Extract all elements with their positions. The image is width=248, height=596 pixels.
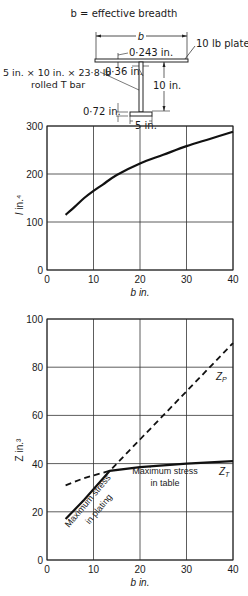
- x-tick-label: 30: [181, 564, 193, 575]
- y-tick-label: 0: [37, 265, 43, 276]
- x-axis-label: b in.: [131, 287, 150, 298]
- zt-series-label: ZT: [218, 466, 230, 478]
- y-axis-label: Z in.³: [14, 438, 25, 461]
- section-modulus-chart: 010203040020406080100b in.Z in.³ZPZTMaxi…: [14, 314, 239, 588]
- x-tick-label: 0: [44, 564, 50, 575]
- y-tick-label: 40: [32, 459, 44, 470]
- x-tick-label: 0: [44, 274, 50, 285]
- zp-series-label: ZP: [215, 371, 227, 383]
- flange-thickness-label: 0·72 in.: [83, 106, 121, 117]
- diagram-title: b = effective breadth: [71, 8, 178, 19]
- moment-of-inertia-chart: 0102030400100200300b in.I in.⁴: [14, 121, 239, 298]
- x-axis-label: b in.: [131, 577, 150, 588]
- x-tick-label: 40: [227, 274, 239, 285]
- depth-label: 10 in.: [153, 80, 181, 91]
- tbar-label-line2: rolled T bar: [31, 79, 85, 90]
- tbar-cross-section: b = effective breadth b 10 lb plate 0·24…: [3, 8, 248, 131]
- x-tick-label: 20: [134, 564, 146, 575]
- plate-label: 10 lb plate: [196, 38, 248, 49]
- tbar-flange: [130, 112, 152, 116]
- x-tick-label: 10: [88, 274, 100, 285]
- x-tick-label: 40: [227, 564, 239, 575]
- y-axis-label: I in.⁴: [14, 195, 25, 215]
- series-line-solid: [66, 132, 233, 215]
- x-tick-label: 30: [181, 274, 193, 285]
- y-tick-label: 60: [32, 410, 44, 421]
- table-annotation-line1: Maximum stress: [132, 466, 198, 476]
- y-tick-label: 200: [26, 169, 43, 180]
- tbar-label-line1: 5 in. × 10 in. × 23·8 lb: [3, 67, 111, 78]
- y-tick-label: 100: [26, 314, 43, 325]
- table-annotation-line2: in table: [150, 478, 179, 488]
- y-tick-label: 100: [26, 217, 43, 228]
- y-tick-label: 0: [37, 555, 43, 566]
- y-tick-label: 20: [32, 507, 44, 518]
- y-tick-label: 300: [26, 121, 43, 132]
- y-tick-label: 80: [32, 362, 44, 373]
- x-tick-label: 20: [134, 274, 146, 285]
- figure: b = effective breadth b 10 lb plate 0·24…: [0, 0, 248, 596]
- plate-thickness-label: 0·243 in.: [129, 47, 173, 58]
- breadth-label: b: [138, 31, 144, 42]
- x-tick-label: 10: [88, 564, 100, 575]
